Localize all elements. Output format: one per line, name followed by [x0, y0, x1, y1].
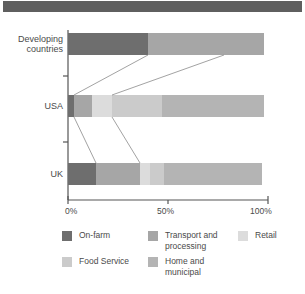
legend-item[interactable]: On-farm	[62, 230, 110, 241]
y-axis-label-developing-countries: Developingcountries	[3, 34, 63, 55]
bar-segment	[68, 163, 96, 185]
legend-swatch-icon	[62, 257, 72, 267]
legend-item[interactable]: Food Service	[62, 256, 129, 267]
bar-segment	[68, 33, 148, 55]
leader-line-2	[74, 117, 96, 163]
label-line: UK	[3, 169, 63, 180]
label-line: Developing	[3, 34, 63, 45]
leader-line-0	[74, 55, 148, 95]
label-line: USA	[3, 101, 63, 112]
legend-swatch-icon	[62, 231, 72, 241]
legend-item[interactable]: Retail	[238, 230, 277, 241]
bar-group-0	[68, 33, 264, 55]
x-tick-label-1: 50%	[157, 206, 174, 216]
bar-segment	[112, 95, 162, 117]
bar-segment	[74, 95, 92, 117]
legend-item[interactable]: Home and municipal	[148, 256, 204, 277]
legend-swatch-icon	[148, 257, 158, 267]
bar-segment	[148, 33, 264, 55]
x-tick-label-2: 100%	[250, 206, 272, 216]
legend-label: Food Service	[79, 256, 129, 267]
legend-swatch-icon	[148, 231, 158, 241]
bar-segment	[162, 95, 264, 117]
legend-label: Transport and processing	[165, 230, 218, 251]
bar-segment	[140, 163, 150, 185]
y-axis-label-uk: UK	[3, 169, 63, 180]
leader-line-3	[112, 117, 140, 163]
legend-label: Retail	[255, 230, 277, 241]
header-banner	[3, 1, 302, 12]
legend-swatch-icon	[238, 231, 248, 241]
y-axis-label-usa: USA	[3, 101, 63, 112]
bar-segment	[96, 163, 140, 185]
bar-segment	[68, 95, 74, 117]
bar-segment	[164, 163, 262, 185]
bar-segment	[92, 95, 112, 117]
legend-item[interactable]: Transport and processing	[148, 230, 218, 251]
bar-group-2	[68, 163, 262, 185]
legend-label: Home and municipal	[165, 256, 204, 277]
chart-legend: On-farmTransport and processingRetailFoo…	[0, 228, 305, 294]
legend-label: On-farm	[79, 230, 110, 241]
bar-segment	[150, 163, 164, 185]
label-line: countries	[3, 44, 63, 55]
leader-line-1	[112, 55, 224, 95]
bar-group-1	[68, 95, 264, 117]
x-tick-label-0: 0%	[65, 206, 77, 216]
